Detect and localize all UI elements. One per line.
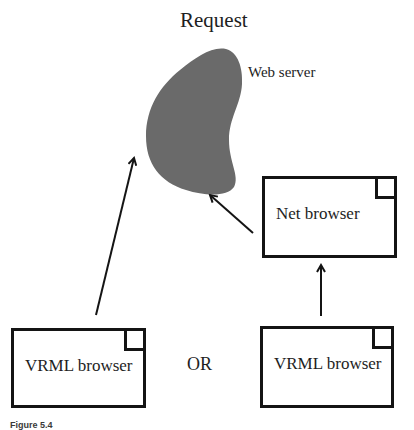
- window-corner-icon: [124, 331, 143, 351]
- net-browser-label: Net browser: [276, 204, 360, 224]
- web-server-label: Web server: [248, 64, 316, 81]
- vrml-browser-right-box: VRML browser: [260, 326, 394, 408]
- window-corner-icon: [375, 179, 394, 199]
- figure-caption: Figure 5.4: [10, 420, 53, 430]
- web-server-shape: [146, 49, 242, 195]
- net-browser-box: Net browser: [262, 176, 397, 258]
- vrml-browser-left-box: VRML browser: [11, 328, 146, 408]
- vrml-browser-left-label: VRML browser: [25, 356, 133, 376]
- vrml-browser-right-label: VRML browser: [274, 354, 382, 374]
- arrow-net-browser-to-server: [210, 195, 253, 233]
- window-corner-icon: [372, 329, 391, 349]
- diagram-title: Request: [180, 8, 248, 33]
- arrow-vrml-left-to-server: [96, 158, 134, 315]
- or-connector-label: OR: [187, 354, 212, 375]
